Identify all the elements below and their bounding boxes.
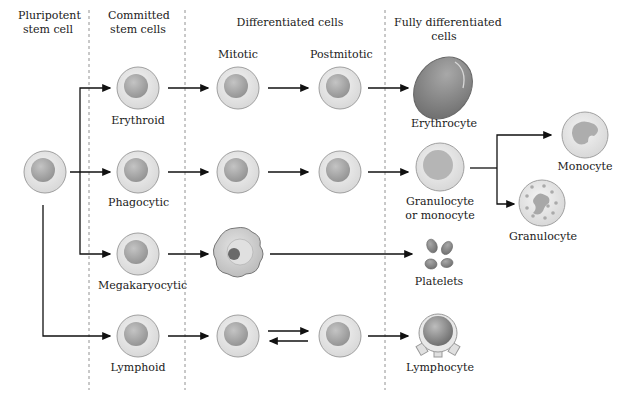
label-granulocyte-or-monocyte: Granulocyte or monocyte: [400, 195, 480, 223]
arrows-to-postmitotic: [268, 88, 412, 341]
label-line: Granulocyte: [400, 195, 480, 209]
header-pluripotent: Pluripotent stem cell: [18, 9, 78, 37]
pluripotent-stem-cell: [24, 151, 66, 193]
postmitotic-cells: [319, 67, 361, 357]
label-monocyte: Monocyte: [555, 160, 615, 174]
granulocyte: [519, 180, 565, 226]
platelets: [424, 238, 455, 270]
label-granulocyte: Granulocyte: [508, 230, 578, 244]
header-line: Pluripotent: [18, 9, 78, 23]
header-differentiated: Differentiated cells: [230, 16, 350, 30]
header-fully-differentiated: Fully differentiated cells: [394, 16, 494, 44]
arrows-to-mitotic: [168, 88, 208, 336]
subheader-postmitotic: Postmitotic: [310, 48, 370, 62]
granulocyte-or-monocyte: [416, 143, 464, 191]
label-platelets: Platelets: [404, 275, 474, 289]
label-erythrocyte: Erythrocyte: [404, 117, 484, 131]
header-committed: Committed stem cells: [108, 9, 168, 37]
label-lymphoid: Lymphoid: [108, 361, 168, 375]
header-line: Fully differentiated: [394, 16, 494, 30]
mitotic-cells: [213, 67, 263, 357]
header-line: stem cell: [18, 23, 78, 37]
header-line: Differentiated cells: [230, 16, 350, 30]
label-phagocytic: Phagocytic: [108, 196, 168, 210]
committed-cells: [117, 67, 159, 357]
label-line: or monocyte: [400, 209, 480, 223]
lymphocyte: [416, 314, 460, 357]
header-line: cells: [394, 30, 494, 44]
label-lymphocyte: Lymphocyte: [400, 361, 480, 375]
branch-arrows: [43, 88, 110, 336]
monocyte: [562, 112, 608, 158]
label-erythroid: Erythroid: [108, 114, 168, 128]
label-megakaryocytic: Megakaryocytic: [98, 279, 178, 293]
subheader-mitotic: Mitotic: [218, 48, 258, 62]
header-line: stem cells: [108, 23, 168, 37]
header-line: Committed: [108, 9, 168, 23]
